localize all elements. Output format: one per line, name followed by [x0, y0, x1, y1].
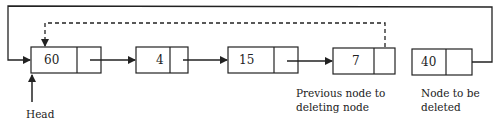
head-label: Head: [26, 108, 55, 120]
deleted-node-label-line2: deleted: [421, 101, 461, 113]
linked-list-diagram: 60 4 15 7 40 Head Previous node to delet…: [0, 0, 503, 129]
node-value: 4: [156, 53, 164, 67]
node-7-previous: 7: [333, 48, 395, 74]
node-4: 4: [136, 47, 188, 73]
node-value: 60: [44, 53, 59, 67]
node-value: 15: [239, 53, 254, 67]
previous-node-label-line2: deleting node: [296, 101, 369, 113]
node-15: 15: [228, 47, 298, 73]
deleted-node-label-line1: Node to be: [421, 87, 480, 99]
node-value: 40: [421, 55, 436, 69]
node-value: 7: [352, 54, 360, 68]
node-40-deleted: 40: [412, 49, 472, 75]
previous-node-label-line1: Previous node to: [296, 87, 385, 99]
